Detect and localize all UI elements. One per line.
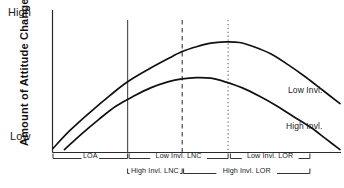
curve-label-low-involvement: Low Invl. (288, 85, 322, 95)
curve-low-involvement (53, 42, 340, 149)
curve-label-high-involvement: High Invl. (286, 121, 322, 131)
y-axis-title: Amount of Attitude Change (18, 6, 30, 146)
bracket-label-low-invl-lor: Low Invl. LOR (210, 151, 330, 160)
bracket-label-high-invl-lor: High Invl. LOR (187, 166, 307, 175)
attitude-change-chart: High Low Amount of Attitude Change Low I… (0, 0, 344, 188)
